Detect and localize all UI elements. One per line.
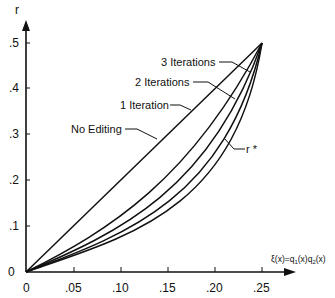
y-tick-label: .3	[9, 127, 19, 141]
y-tick-label: .4	[9, 81, 19, 95]
x-tick-label: .20	[206, 281, 223, 295]
y-axis-arrow-icon	[22, 20, 30, 31]
y-tick-label: .1	[9, 219, 19, 233]
y-tick-label: .5	[9, 36, 19, 50]
annotation-2-iterations: 2 Iterations	[135, 76, 190, 88]
x-tick-label: 0	[23, 281, 30, 295]
x-tick-label: .25	[253, 281, 270, 295]
annotation-1-iteration: 1 Iteration	[120, 99, 169, 111]
x-tick-label: .05	[65, 281, 82, 295]
leader-no-editing	[125, 129, 157, 139]
x-tick-label: .10	[112, 281, 129, 295]
y-tick-label: 0	[8, 265, 15, 279]
x-axis-arrow-icon	[284, 268, 296, 276]
y-tick-label: .2	[9, 173, 19, 187]
annotation-no-editing: No Editing	[71, 123, 122, 135]
chart: 0 .1 .2 .3 .4 .5 r 0 .05 .10 .15 .20 .25…	[0, 0, 335, 298]
x-axis-label: ξ(x)=q1(x)q2(x)	[271, 254, 326, 265]
y-axis-label: r	[15, 3, 19, 17]
x-tick-label: .15	[159, 281, 176, 295]
annotation-r-star: r *	[246, 143, 258, 155]
leader-1-iteration	[170, 105, 191, 110]
annotation-3-iterations: 3 Iterations	[161, 56, 216, 68]
